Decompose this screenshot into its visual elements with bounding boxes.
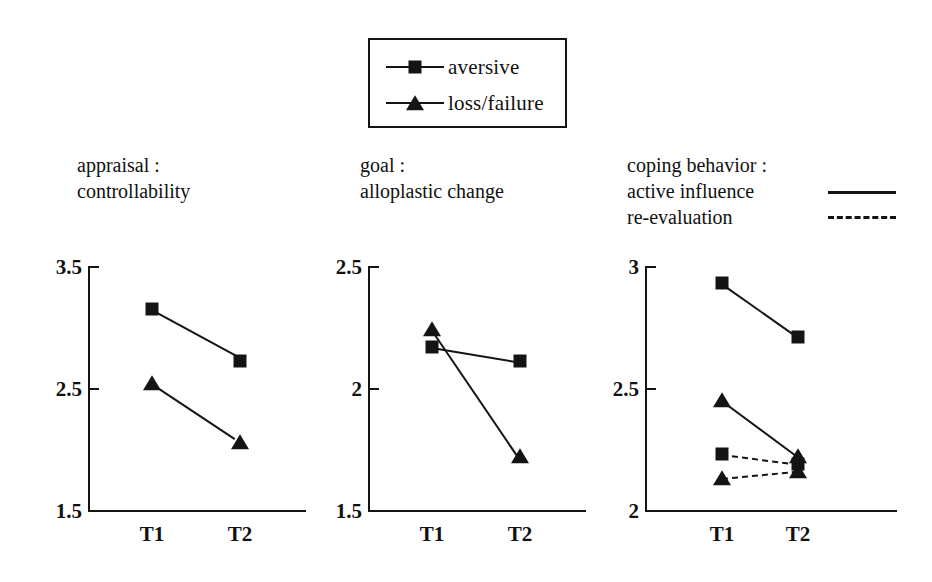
x-axis-panel2 xyxy=(368,510,586,512)
y-tick-label-panel2-0: 2.5 xyxy=(302,255,362,280)
series-line-loss-failure-panel1 xyxy=(151,383,235,440)
series-line-loss-failure-panel2 xyxy=(430,329,520,460)
series-legend: aversive loss/failure xyxy=(368,38,567,128)
y-tick-label-panel1-2: 1.5 xyxy=(22,499,82,524)
x-tick-label-panel2-t1: T1 xyxy=(420,522,445,547)
series-line-aversive-active-panel3 xyxy=(721,283,798,338)
panel-title-coping-line1: coping behavior : xyxy=(627,152,767,178)
data-point-loss-failure-panel2-t2 xyxy=(511,448,529,463)
y-tick-label-panel3-2: 2 xyxy=(579,499,639,524)
data-point-aversive-reeval-panel3-t1 xyxy=(716,447,729,460)
y-tick-label-panel3-1: 2.5 xyxy=(579,377,639,402)
y-tick-panel2-mid xyxy=(370,388,379,390)
triangle-marker-icon xyxy=(382,91,448,115)
y-tick-panel3-top xyxy=(647,266,656,268)
figure-root: aversive loss/failure appraisal : contro… xyxy=(0,0,932,582)
y-tick-panel1-mid xyxy=(90,388,99,390)
data-point-loss-failure-reeval-panel3-t2 xyxy=(789,463,807,478)
y-tick-label-panel3-0: 3 xyxy=(579,255,639,280)
x-tick-label-panel3-t2: T2 xyxy=(786,522,811,547)
x-tick-label-panel3-t1: T1 xyxy=(710,522,735,547)
data-point-aversive-panel2-t2 xyxy=(514,355,527,368)
series-line-aversive-panel1 xyxy=(151,309,238,358)
panel-title-coping-line2: active influence xyxy=(627,178,767,204)
legend-label-loss-failure: loss/failure xyxy=(448,92,544,114)
x-tick-label-panel1-t2: T2 xyxy=(228,522,253,547)
y-tick-label-panel2-1: 2 xyxy=(302,377,362,402)
square-marker-icon xyxy=(382,55,448,79)
data-point-loss-failure-active-panel3-t1 xyxy=(713,392,731,407)
solid-line-key-icon xyxy=(828,191,896,194)
panel-title-coping-line3: re-evaluation xyxy=(627,204,767,230)
data-point-loss-failure-reeval-panel3-t1 xyxy=(713,470,731,485)
y-tick-panel1-top xyxy=(90,266,99,268)
data-point-aversive-panel1-t2 xyxy=(234,355,247,368)
x-tick-label-panel1-t1: T1 xyxy=(140,522,165,547)
panel-title-goal-line1: goal : xyxy=(360,152,504,178)
data-point-loss-failure-panel2-t1 xyxy=(423,322,441,337)
panel-title-coping: coping behavior : active influence re-ev… xyxy=(627,152,767,230)
panel-title-appraisal-line1: appraisal : xyxy=(77,152,190,178)
legend-item-loss-failure: loss/failure xyxy=(370,88,565,118)
y-tick-panel2-top xyxy=(370,266,379,268)
y-tick-label-panel1-1: 2.5 xyxy=(22,377,82,402)
y-tick-panel3-mid xyxy=(647,388,656,390)
series-line-loss-failure-active-panel3 xyxy=(721,400,798,458)
panel-title-appraisal-line2: controllability xyxy=(77,178,190,204)
legend-item-aversive: aversive xyxy=(370,52,565,82)
x-axis-panel3 xyxy=(645,510,897,512)
legend-label-aversive: aversive xyxy=(448,56,520,78)
x-tick-label-panel2-t2: T2 xyxy=(508,522,533,547)
data-point-loss-failure-panel1-t2 xyxy=(231,434,249,449)
panel-title-goal-line2: alloplastic change xyxy=(360,178,504,204)
y-tick-panel3-bottom xyxy=(647,510,656,512)
data-point-loss-failure-panel1-t1 xyxy=(143,375,161,390)
series-line-aversive-reeval-panel3 xyxy=(722,454,798,466)
y-tick-label-panel2-2: 1.5 xyxy=(302,499,362,524)
panel-title-appraisal: appraisal : controllability xyxy=(77,152,190,204)
data-point-aversive-active-panel3-t1 xyxy=(716,277,729,290)
y-tick-panel2-bottom xyxy=(370,510,379,512)
y-tick-panel1-bottom xyxy=(90,510,99,512)
panel-title-goal: goal : alloplastic change xyxy=(360,152,504,204)
data-point-aversive-active-panel3-t2 xyxy=(792,330,805,343)
x-axis-panel1 xyxy=(88,510,306,512)
data-point-aversive-panel2-t1 xyxy=(426,340,439,353)
dashed-line-key-icon xyxy=(828,216,896,219)
data-point-aversive-panel1-t1 xyxy=(146,302,159,315)
y-tick-label-panel1-0: 3.5 xyxy=(22,255,82,280)
series-line-loss-failure-reeval-panel3 xyxy=(722,471,798,480)
